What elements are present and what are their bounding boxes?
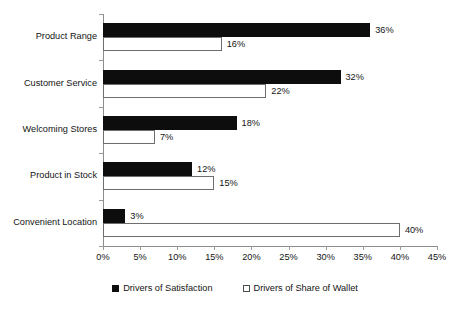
- bar-value-label: 22%: [271, 84, 289, 98]
- bar-chart: Product RangeCustomer ServiceWelcoming S…: [0, 0, 470, 310]
- bar-value-label: 7%: [160, 130, 173, 144]
- category-label-product-range: Product Range: [0, 31, 97, 41]
- x-axis-tick: [437, 246, 438, 250]
- category-label-customer-service: Customer Service: [0, 78, 97, 88]
- x-axis-tick-label: 15%: [205, 252, 223, 262]
- bar-value-label: 3%: [130, 209, 143, 223]
- bar-welcoming-stores-series-0: [103, 116, 237, 130]
- x-axis-tick-label: 0%: [96, 252, 109, 262]
- bar-value-label: 15%: [219, 176, 237, 190]
- y-axis-tick: [99, 107, 103, 108]
- bar-product-in-stock-series-0: [103, 162, 192, 176]
- legend-swatch-outline-icon: [243, 285, 250, 292]
- x-axis-tick: [251, 246, 252, 250]
- chart-legend: Drivers of Satisfaction Drivers of Share…: [0, 283, 470, 293]
- legend-label: Drivers of Share of Wallet: [254, 283, 358, 293]
- x-axis-tick: [400, 246, 401, 250]
- x-axis-tick-label: 35%: [354, 252, 372, 262]
- legend-item-drivers-of-satisfaction: Drivers of Satisfaction: [112, 283, 212, 293]
- x-axis-line: [103, 246, 438, 247]
- bar-value-label: 36%: [375, 23, 393, 37]
- bar-customer-service-series-0: [103, 70, 341, 84]
- bar-convenient-location-series-0: [103, 209, 125, 223]
- x-axis-tick-label: 30%: [316, 252, 334, 262]
- x-axis-tick: [363, 246, 364, 250]
- x-axis-tick-label: 20%: [242, 252, 260, 262]
- x-axis-tick: [326, 246, 327, 250]
- bar-product-range-series-0: [103, 23, 370, 37]
- x-axis-tick-label: 45%: [428, 252, 446, 262]
- x-axis-tick-label: 25%: [279, 252, 297, 262]
- bar-value-label: 40%: [405, 223, 423, 237]
- bar-welcoming-stores-series-1: [103, 130, 155, 144]
- legend-label: Drivers of Satisfaction: [123, 283, 212, 293]
- legend-swatch-filled-icon: [112, 285, 119, 292]
- bar-customer-service-series-1: [103, 84, 266, 98]
- y-axis-tick: [99, 200, 103, 201]
- bar-value-label: 16%: [227, 37, 245, 51]
- x-axis-tick-label: 10%: [168, 252, 186, 262]
- x-axis-tick-label: 40%: [391, 252, 409, 262]
- bar-value-label: 12%: [197, 162, 215, 176]
- x-axis-tick: [103, 246, 104, 250]
- category-label-product-in-stock: Product in Stock: [0, 170, 97, 180]
- bar-convenient-location-series-1: [103, 223, 400, 237]
- x-axis-tick-label: 5%: [133, 252, 146, 262]
- x-axis-tick: [289, 246, 290, 250]
- legend-item-drivers-of-share-of-wallet: Drivers of Share of Wallet: [243, 283, 358, 293]
- bar-value-label: 18%: [242, 116, 260, 130]
- category-label-convenient-location: Convenient Location: [0, 217, 97, 227]
- bar-product-range-series-1: [103, 37, 222, 51]
- y-axis-tick: [99, 60, 103, 61]
- y-axis-tick: [99, 14, 103, 15]
- x-axis-tick: [214, 246, 215, 250]
- bar-value-label: 32%: [346, 70, 364, 84]
- category-label-welcoming-stores: Welcoming Stores: [0, 124, 97, 134]
- x-axis-tick: [177, 246, 178, 250]
- x-axis-tick: [140, 246, 141, 250]
- y-axis-tick: [99, 153, 103, 154]
- bar-product-in-stock-series-1: [103, 176, 214, 190]
